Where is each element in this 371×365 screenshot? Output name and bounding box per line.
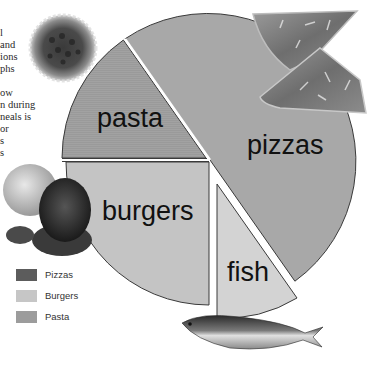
slice-label-pasta: pasta: [97, 103, 164, 133]
slice-label-burgers: burgers: [102, 196, 194, 226]
legend-label: Pasta: [45, 311, 69, 322]
pie-chart-figure: l and ions phs ow n during neals is or s…: [0, 0, 371, 365]
slice-label-fish: fish: [227, 257, 269, 287]
legend-item-burgers: Burgers: [16, 285, 78, 306]
legend-item-pasta: Pasta: [16, 306, 78, 327]
legend-swatch-pasta: [16, 311, 37, 323]
legend-label: Burgers: [45, 290, 78, 301]
legend-label: Pizzas: [45, 269, 73, 280]
legend-item-pizzas: Pizzas: [16, 264, 78, 285]
pasta-photo: [30, 15, 96, 81]
slice-label-pizzas: pizzas: [247, 130, 324, 160]
legend-swatch-burgers: [16, 290, 37, 302]
legend-swatch-pizzas: [16, 269, 37, 281]
legend: Pizzas Burgers Pasta: [16, 264, 78, 327]
fish-photo: [182, 315, 323, 349]
